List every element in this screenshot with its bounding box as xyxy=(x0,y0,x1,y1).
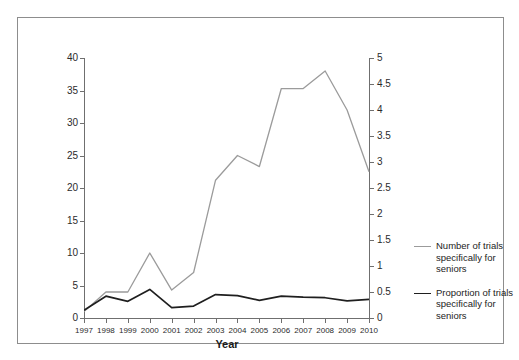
tick-label-left: 0 xyxy=(38,313,78,323)
y-axis-left-title: Number of trials xyxy=(38,0,54,18)
tick-label-left: 20 xyxy=(38,183,78,193)
tick-label-x: 2010 xyxy=(354,326,384,335)
tick-mark-right xyxy=(370,214,374,215)
tick-mark-x xyxy=(281,319,282,323)
tick-mark-right xyxy=(370,84,374,85)
tick-mark-x xyxy=(194,319,195,323)
legend-label: Number of trials specifically for senior… xyxy=(436,240,518,275)
tick-label-left: 10 xyxy=(38,248,78,258)
tick-mark-x xyxy=(128,319,129,323)
legend-entry: Proportion of trials specifically for se… xyxy=(414,287,518,322)
tick-mark-x xyxy=(347,319,348,323)
tick-label-left: 35 xyxy=(38,86,78,96)
tick-label-right: 4 xyxy=(377,105,417,115)
tick-mark-right xyxy=(370,266,374,267)
tick-mark-x xyxy=(237,319,238,323)
tick-label-right: 5 xyxy=(377,53,417,63)
tick-label-left: 5 xyxy=(38,281,78,291)
tick-mark-x xyxy=(369,319,370,323)
tick-mark-x xyxy=(150,319,151,323)
tick-mark-right xyxy=(370,110,374,111)
tick-mark-x xyxy=(303,319,304,323)
tick-mark-x xyxy=(172,319,173,323)
tick-mark-x xyxy=(259,319,260,323)
tick-mark-x xyxy=(216,319,217,323)
tick-label-right: 4.5 xyxy=(377,79,417,89)
tick-mark-right xyxy=(370,162,374,163)
tick-label-right: 2.5 xyxy=(377,183,417,193)
figure: Number of trials Percentage of trials Ye… xyxy=(0,0,519,360)
line-number-of-trials xyxy=(84,71,369,312)
tick-mark-right xyxy=(370,188,374,189)
chart-lines xyxy=(84,58,370,318)
tick-label-left: 15 xyxy=(38,216,78,226)
plot-area: 0510152025303540 00.511.522.533.544.55 1… xyxy=(84,58,370,318)
tick-mark-right xyxy=(370,240,374,241)
tick-label-right: 3 xyxy=(377,157,417,167)
legend: Number of trials specifically for senior… xyxy=(414,240,518,333)
legend-line-swatch xyxy=(414,293,431,294)
tick-label-right: 2 xyxy=(377,209,417,219)
tick-mark-right xyxy=(370,292,374,293)
x-axis-title: Year xyxy=(84,338,370,350)
legend-line-swatch xyxy=(414,246,431,247)
tick-label-left: 40 xyxy=(38,53,78,63)
tick-mark-right xyxy=(370,318,374,319)
tick-mark-x xyxy=(84,319,85,323)
tick-mark-right xyxy=(370,136,374,137)
legend-entry: Number of trials specifically for senior… xyxy=(414,240,518,275)
tick-label-right: 0.5 xyxy=(377,287,417,297)
tick-label-left: 25 xyxy=(38,151,78,161)
tick-label-right: 1.5 xyxy=(377,235,417,245)
legend-label: Proportion of trials specifically for se… xyxy=(436,287,518,322)
tick-label-right: 3.5 xyxy=(377,131,417,141)
figure-border: Number of trials Percentage of trials Ye… xyxy=(17,17,504,344)
tick-label-left: 30 xyxy=(38,118,78,128)
tick-mark-x xyxy=(106,319,107,323)
tick-label-right: 1 xyxy=(377,261,417,271)
tick-mark-right xyxy=(370,58,374,59)
y-axis-right-title: Percentage of trials xyxy=(414,0,430,58)
tick-label-right: 0 xyxy=(377,313,417,323)
tick-mark-x xyxy=(325,319,326,323)
